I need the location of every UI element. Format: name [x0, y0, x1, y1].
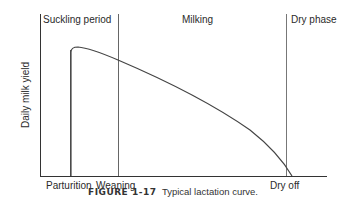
phase-label-dry: Dry phase [291, 14, 337, 25]
phase-label-suckling: Suckling period [43, 14, 111, 25]
figure-caption-text: Typical lactation curve. [162, 186, 258, 197]
figure-number: FIGURE 1-17 [88, 187, 156, 197]
figure-caption: FIGURE 1-17 Typical lactation curve. [88, 186, 258, 197]
marker-label-dry-off: Dry off [270, 180, 299, 191]
phase-label-milking: Milking [182, 14, 213, 25]
y-axis-label: Daily milk yield [20, 62, 31, 128]
marker-label-parturition: Parturition [46, 180, 92, 191]
lactation-curve [71, 47, 292, 176]
